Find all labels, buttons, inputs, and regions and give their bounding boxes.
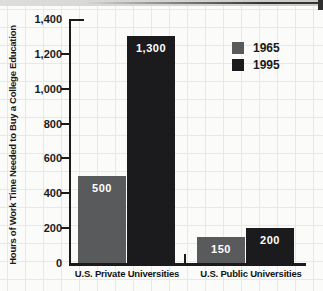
y-tick-label: 200: [44, 222, 62, 235]
y-tick-mark: [61, 53, 69, 55]
bar-1995-private: 1,300: [127, 36, 175, 263]
y-tick-mark: [61, 123, 69, 125]
y-tick-label: 0: [56, 257, 62, 270]
bar-value-label: 1,300: [127, 36, 175, 54]
bar-value-label: 150: [197, 237, 245, 255]
legend-item-1995: 1995: [232, 58, 280, 72]
bar-1995-public: 200: [246, 228, 294, 263]
y-axis-title: Hours of Work Time Needed to Buy a Colle…: [7, 16, 21, 274]
y-tick-mark: [61, 88, 69, 90]
legend-label-1965: 1965: [253, 41, 280, 55]
bar-value-label: 200: [246, 228, 294, 246]
y-axis-top-serif: [69, 19, 84, 21]
legend-label-1995: 1995: [253, 58, 280, 72]
y-tick-label: 600: [44, 152, 62, 165]
y-tick-label: 800: [44, 118, 62, 131]
y-tick-label: 400: [44, 187, 62, 200]
y-tick-mark: [61, 157, 69, 159]
bar-1965-public: 150: [197, 237, 245, 263]
scan-corner-mark: [318, 0, 323, 10]
bar-1965-private: 500: [78, 176, 126, 263]
legend-swatch-1965: [232, 42, 244, 54]
category-label-public: U.S. Public Universities: [200, 268, 301, 279]
y-tick-mark: [61, 227, 69, 229]
category-label-private: U.S. Private Universities: [75, 268, 179, 279]
legend-swatch-1995: [232, 59, 244, 71]
y-tick-label: 1,400: [34, 13, 62, 26]
scan-edge-band: [0, 0, 323, 6]
bar-value-label: 500: [78, 176, 126, 194]
y-tick-label: 1,000: [34, 83, 62, 96]
scan-edge-line: [85, 2, 323, 4]
y-tick-label: 1,200: [34, 48, 62, 61]
legend-item-1965: 1965: [232, 41, 280, 55]
x-axis-line: [69, 263, 306, 266]
bar-chart-figure: Hours of Work Time Needed to Buy a Colle…: [0, 0, 323, 291]
y-axis-line: [69, 19, 71, 265]
category-divider-tick: [184, 254, 186, 265]
y-tick-mark: [61, 192, 69, 194]
legend: 1965 1995: [232, 41, 280, 75]
